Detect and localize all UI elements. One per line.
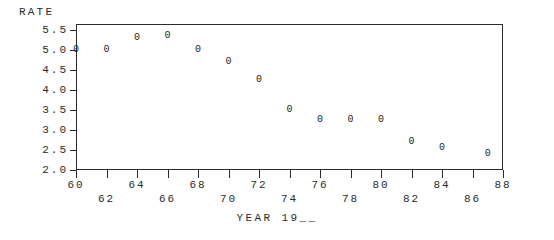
x-axis-tick-label: 70	[220, 194, 237, 205]
x-axis-tick-label: 86	[464, 194, 481, 205]
y-axis-tick-label-wrap: 3.0	[12, 130, 68, 141]
y-axis-tick-label-wrap: 5.0	[12, 50, 68, 61]
y-axis-tick-label: 4.0	[24, 85, 68, 96]
x-axis-tick	[320, 170, 321, 178]
x-axis-tick	[412, 170, 413, 178]
y-axis-tick-label-wrap: 2.5	[12, 150, 68, 161]
y-axis-tick	[70, 130, 77, 131]
x-axis-tick	[442, 170, 443, 178]
x-axis-tick	[351, 170, 352, 178]
y-axis-tick-label: 5.5	[24, 25, 68, 36]
y-axis-tick-label-wrap: 4.0	[12, 90, 68, 101]
x-axis-tick	[290, 170, 291, 178]
y-axis-title: RATE	[19, 6, 54, 18]
y-axis-tick	[70, 70, 77, 71]
x-axis-tick-label: 84	[433, 180, 450, 191]
x-axis-tick-label: 66	[159, 194, 176, 205]
y-axis-tick-label: 3.0	[24, 125, 68, 136]
y-axis-tick-label: 4.5	[24, 65, 68, 76]
y-axis-tick-label-wrap: 3.5	[12, 110, 68, 121]
x-axis-tick	[198, 170, 199, 178]
x-axis-tick-label: 82	[403, 194, 420, 205]
y-axis-tick-label: 5.0	[24, 45, 68, 56]
plot-frame	[76, 24, 503, 170]
x-axis-tick	[137, 170, 138, 178]
x-axis-tick-label: 88	[494, 180, 511, 191]
x-axis-tick	[259, 170, 260, 178]
scatter-chart: RATE 5.55.04.54.03.53.02.52.0 6062646668…	[0, 0, 554, 240]
x-axis-tick	[381, 170, 382, 178]
x-axis-title: YEAR 19__	[0, 212, 554, 224]
x-axis-tick-label: 74	[281, 194, 298, 205]
x-axis-tick-label: 62	[98, 194, 115, 205]
y-axis-tick	[70, 30, 77, 31]
y-axis-tick-label: 3.5	[24, 105, 68, 116]
x-axis-tick-label: 64	[128, 180, 145, 191]
y-axis-tick-label: 2.0	[24, 165, 68, 176]
y-axis-tick	[70, 150, 77, 151]
x-axis-tick-label: 60	[67, 180, 84, 191]
y-axis-tick-label: 2.5	[24, 145, 68, 156]
x-axis-tick-label: 80	[372, 180, 389, 191]
x-axis-tick	[76, 170, 77, 178]
y-axis-tick-label-wrap: 4.5	[12, 70, 68, 81]
x-axis-tick	[168, 170, 169, 178]
y-axis-tick	[70, 110, 77, 111]
y-axis-tick	[70, 50, 77, 51]
x-axis-tick-label: 68	[189, 180, 206, 191]
x-axis-tick-label: 78	[342, 194, 359, 205]
y-axis-tick-label-wrap: 5.5	[12, 30, 68, 41]
y-axis-tick	[70, 90, 77, 91]
x-axis-tick	[107, 170, 108, 178]
x-axis-tick	[503, 170, 504, 178]
x-axis-tick	[473, 170, 474, 178]
x-axis-tick-label: 76	[311, 180, 328, 191]
x-axis-tick-label: 72	[250, 180, 267, 191]
x-axis-tick	[229, 170, 230, 178]
y-axis-tick-label-wrap: 2.0	[12, 170, 68, 181]
